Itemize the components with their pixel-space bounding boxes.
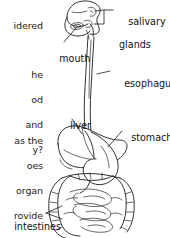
label-salivary-glands: salivary glands (116, 4, 166, 74)
digestive-system-figure-page: idered he od and y? as the oes organ rov… (0, 0, 170, 238)
body-paragraph-1: idered (0, 7, 43, 45)
label-mouth: mouth (47, 41, 90, 76)
body-line: organ (16, 185, 43, 196)
label-stomach-text: stomach (131, 132, 170, 143)
label-salivary-glands-line2: glands (116, 39, 166, 51)
leader-esophagus (97, 71, 110, 74)
label-liver-text: liver (70, 120, 91, 131)
body-line: as the (14, 135, 43, 146)
label-stomach: stomach (119, 120, 170, 155)
label-intestines: intestines (2, 209, 61, 238)
label-liver: liver (58, 108, 91, 143)
body-line: oes (27, 160, 43, 171)
label-mouth-text: mouth (59, 53, 90, 64)
body-line: idered (14, 20, 44, 31)
head-icon (65, 1, 100, 39)
label-intestines-text: intestines (14, 221, 61, 232)
body-line: od (31, 94, 43, 105)
label-esophagus-text: esophagus (124, 78, 170, 89)
body-line: he (31, 69, 43, 80)
label-salivary-glands-line1: salivary (128, 16, 165, 27)
leader-salivary-upper (95, 10, 104, 11)
label-esophagus: esophagus (112, 66, 170, 101)
